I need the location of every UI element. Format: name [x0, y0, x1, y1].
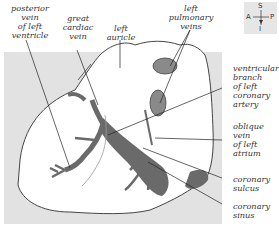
label-left-pulmonary-veins: left pulmonary veins: [168, 4, 214, 31]
label-coronary-sulcus: coronary sulcus: [233, 175, 270, 193]
label-coronary-sinus: coronary sinus: [233, 202, 270, 220]
compass-arrows-icon: [244, 2, 277, 34]
orientation-compass: S A P I: [244, 2, 277, 34]
label-great-cardiac-vein: great cardiac vein: [60, 14, 96, 41]
label-posterior-vein-of-left-ventricle: posterior vein of left ventricle: [8, 4, 52, 40]
label-left-auricle: left auricle: [106, 24, 136, 42]
label-oblique-vein: oblique vein of left atrium: [233, 122, 264, 158]
label-ventricular-branch: ventricular branch of left coronary arte…: [233, 64, 279, 109]
